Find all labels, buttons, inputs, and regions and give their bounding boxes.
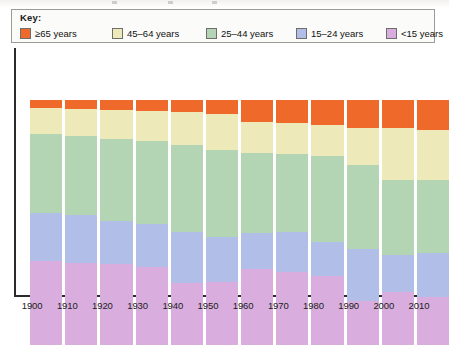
bar-segment-1990--65-years (347, 100, 379, 128)
legend-label-under-15: <15 years (401, 28, 443, 39)
legend-swatch-icon-15-24 (296, 28, 307, 39)
bar-segment-1950-15-24-years (206, 237, 238, 282)
legend-item-list: ≥65 years45–64 years25–44 years15–24 yea… (20, 27, 430, 39)
legend-swatch-icon-45-64 (112, 28, 123, 39)
bar-segment-2010-45-64-years (417, 130, 449, 180)
bar-segment-1980-15-24-years (311, 242, 343, 276)
legend-label-15-24: 15–24 years (311, 28, 363, 39)
bar-segment-1970-25-44-years (276, 154, 308, 232)
bar-segment-1910-15-24-years (65, 215, 97, 263)
x-tick-label-1930: 1930 (122, 300, 154, 311)
bar-segment-1930-15-24-years (136, 224, 168, 267)
bar-segment-1950--15-years (206, 282, 238, 345)
legend-item-under-15[interactable]: <15 years (386, 28, 443, 39)
bar-segment-2000-45-64-years (382, 128, 414, 180)
bar-segment-1960-15-24-years (241, 233, 273, 269)
plot-area (14, 50, 435, 295)
x-axis-tick-labels: 1900191019201930194019501960197019801990… (16, 300, 435, 311)
scan-artifact-strip (0, 0, 449, 8)
legend-swatch-icon-65-plus (20, 28, 31, 39)
bar-segment-1940-45-64-years (171, 112, 203, 145)
bar-segment-1910-45-64-years (65, 109, 97, 136)
legend-item-25-44[interactable]: 25–44 years (206, 28, 273, 39)
x-tick-label-1980: 1980 (297, 300, 329, 311)
bar-segment-2000--65-years (382, 100, 414, 128)
bar-segment-1930--65-years (136, 100, 168, 111)
x-tick-label-1940: 1940 (157, 300, 189, 311)
legend-label-25-44: 25–44 years (221, 28, 273, 39)
x-tick-label-2010: 2010 (403, 300, 435, 311)
x-tick-label-1990: 1990 (333, 300, 365, 311)
x-tick-label-1900: 1900 (16, 300, 48, 311)
bar-segment-1930-45-64-years (136, 111, 168, 141)
bar-segment-1900--65-years (30, 100, 62, 108)
legend-item-65-plus[interactable]: ≥65 years (20, 28, 77, 39)
bar-segment-1940--65-years (171, 100, 203, 112)
bar-segment-1980-25-44-years (311, 156, 343, 242)
bar-segment-1950-25-44-years (206, 150, 238, 237)
bar-segment-1990-25-44-years (347, 165, 379, 249)
legend-item-45-64[interactable]: 45–64 years (112, 28, 179, 39)
legend-swatch-icon-25-44 (206, 28, 217, 39)
x-tick-label-1960: 1960 (227, 300, 259, 311)
bar-segment-1990-15-24-years (347, 249, 379, 301)
bar-segment-1910--65-years (65, 100, 97, 109)
bar-segment-1940--15-years (171, 283, 203, 345)
bar-segment-1940-25-44-years (171, 145, 203, 232)
bar-segment-1950-45-64-years (206, 114, 238, 150)
bar-segment-1940-15-24-years (171, 232, 203, 283)
bar-segment-1970-45-64-years (276, 123, 308, 154)
bar-segment-2010-25-44-years (417, 180, 449, 253)
x-tick-label-1920: 1920 (86, 300, 118, 311)
bar-segment-1990-45-64-years (347, 128, 379, 165)
bar-segment-1980--65-years (311, 100, 343, 125)
bar-segment-2000-25-44-years (382, 180, 414, 255)
chart-legend: Key: ≥65 years45–64 years25–44 years15–2… (11, 9, 435, 43)
bar-segment-1900-15-24-years (30, 213, 62, 261)
bar-segment-1960-25-44-years (241, 153, 273, 233)
legend-item-15-24[interactable]: 15–24 years (296, 28, 363, 39)
bar-segment-1920-45-64-years (100, 110, 132, 139)
x-tick-label-2000: 2000 (368, 300, 400, 311)
bar-segment-1970--65-years (276, 100, 308, 123)
bar-segment-2010--65-years (417, 100, 449, 130)
bar-segment-1900-45-64-years (30, 108, 62, 134)
legend-title: Key: (20, 12, 41, 23)
x-tick-label-1950: 1950 (192, 300, 224, 311)
bar-segment-1960-45-64-years (241, 122, 273, 153)
bar-segment-1950--65-years (206, 100, 238, 114)
x-tick-label-1910: 1910 (51, 300, 83, 311)
bar-segment-1900-25-44-years (30, 134, 62, 213)
bar-segment-1920--65-years (100, 100, 132, 110)
bar-segment-1980-45-64-years (311, 125, 343, 156)
bar-segment-1930-25-44-years (136, 141, 168, 224)
bar-segment-2010-15-24-years (417, 253, 449, 297)
bar-segment-1970-15-24-years (276, 232, 308, 272)
legend-label-45-64: 45–64 years (127, 28, 179, 39)
x-tick-label-1970: 1970 (262, 300, 294, 311)
bar-segment-1920-15-24-years (100, 221, 132, 264)
bar-segment-1920-25-44-years (100, 139, 132, 221)
bar-segment-1960--65-years (241, 100, 273, 122)
bar-segment-2000-15-24-years (382, 255, 414, 292)
bar-segment-1910-25-44-years (65, 136, 97, 215)
legend-swatch-icon-under-15 (386, 28, 397, 39)
legend-label-65-plus: ≥65 years (35, 28, 77, 39)
